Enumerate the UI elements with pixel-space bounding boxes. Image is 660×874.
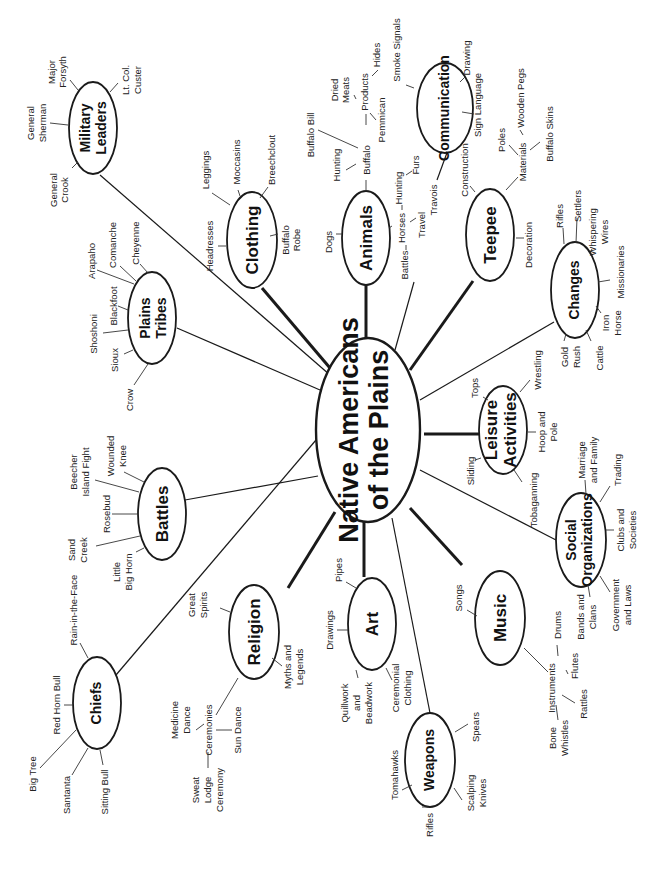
leaf-comanche: Comanche [107,222,118,268]
hub-node: Native Americans of the Plains [316,317,420,543]
leaf-sioux: Sioux [109,348,120,372]
leisure-label-2: Activities [501,392,520,468]
leaf-products: Products [359,73,370,111]
svg-text:Creek: Creek [78,537,89,563]
leaf-sign-language: Sign Language [472,73,483,137]
chiefs-label: Chiefs [88,681,104,724]
leaf-sand-creek: Sand [66,539,77,561]
mind-map: Native Americans of the Plains Military … [0,0,660,874]
hub-title-line2: of the Plains [364,350,394,511]
svg-text:Custer: Custer [132,66,143,94]
leaf-wooden-pegs: Wooden Pegs [515,68,526,128]
military-leaders-label-1: Military [77,103,93,152]
leaf-marriage-family: Marriage [576,441,587,479]
leaf-instruments: Instruments [546,663,557,713]
node-religion: Religion Great Spirits Myths and Legends… [169,585,305,812]
communication-label: Communication [436,55,452,161]
leaf-big-tree: Big Tree [27,756,38,791]
leaf-settlers: Settlers [572,190,583,222]
node-plains-tribes: Plains Tribes Crow Sioux Shoshoni Blackf… [86,221,176,411]
svg-text:and Family: and Family [588,437,599,484]
leaf-poles: Poles [496,128,507,152]
leaf-drawings: Drawings [324,610,335,650]
leaf-whispering-wires: Whispering [587,208,598,256]
leaf-pemmican: Pemmican [376,98,387,143]
leaf-battles-horses: Battles [399,250,410,279]
hub-title-line1: Native Americans [334,317,364,543]
leaf-medicine-dance: Medicine [169,701,180,739]
node-clothing: Clothing Headresses Leggings Moccasins B… [200,135,302,288]
leaf-red-horn-bull: Red Horn Bull [51,675,62,734]
leisure-label-1: Leisure [482,400,501,460]
leaf-pipes: Pipes [333,558,344,582]
edge-chiefs [116,440,316,675]
leaf-buffalo-skins: Buffalo Skins [544,106,555,162]
svg-text:Whistles: Whistles [559,720,570,756]
leaf-smoke-signals: Smoke Signals [391,18,402,82]
leaf-cheyenne: Cheyenne [130,221,141,264]
svg-text:Clans: Clans [587,605,598,630]
svg-text:Meats: Meats [340,77,351,103]
svg-text:and: and [351,695,362,711]
svg-text:Crook: Crook [59,177,70,203]
leaf-clubs-societies: Clubs and [615,509,626,552]
battles-label: Battles [153,486,172,543]
leaf-moccasins: Moccasins [231,139,242,184]
leaf-hunting-horses: Hunting [393,172,404,205]
music-label: Music [491,594,510,642]
leaf-little-big-horn: Little [111,562,122,582]
leaf-ceremonial-clothing: Ceremonial [390,664,401,713]
svg-text:Dance: Dance [181,706,192,733]
svg-text:Robe: Robe [291,229,302,252]
edge-religion [288,512,335,588]
changes-label: Changes [566,260,582,319]
svg-text:Forsyth: Forsyth [57,56,68,88]
leaf-santanta: Santanta [61,775,72,814]
military-leaders-label-2: Leaders [93,101,109,155]
religion-label: Religion [245,598,264,665]
leaf-buffalo: Buffalo [361,145,372,174]
leaf-general-sherman: General [25,106,36,140]
leaf-cattle: Cattle [594,346,605,371]
node-social-organizations: Social Organizations Marriage and Family… [556,437,638,640]
leaf-myths-legends: Myths and [282,645,293,689]
leaf-rain-in-the-face: Rain-in-the-Face [68,575,79,646]
svg-text:and Laws: and Laws [622,584,633,625]
leaf-crow: Crow [124,389,135,411]
edge-clothing [262,288,330,368]
leaf-general-crook: General [48,173,59,207]
plains-tribes-label-1: Plains [137,297,153,338]
node-military-leaders: Military Leaders General Crook General S… [25,56,143,207]
svg-text:Societies: Societies [627,510,638,549]
leaf-horses: Horses [396,213,407,243]
leaf-drawing: Drawing [461,41,472,76]
leaf-hoop-and-pole: Hoop and [536,411,547,452]
leaf-travel: Travel [416,212,427,238]
social-label-1: Social [563,519,579,560]
leaf-materials: Materials [517,142,528,181]
leaf-shoshoni: Shoshoni [88,314,99,354]
leaf-buffalo-robe: Buffalo [280,225,291,254]
leaf-arapaho: Arapaho [86,243,97,279]
node-art: Art Pipes Drawings Quillwork and Beadwor… [324,558,413,724]
svg-text:Horse: Horse [612,310,623,335]
node-changes: Changes Rifles Settlers Whispering Wires… [551,190,626,371]
leaf-scalping-knives: Scalping [465,775,476,811]
svg-text:Ceremony: Ceremony [214,768,225,812]
leaf-construction: Construction [459,143,470,196]
svg-text:Beadwork: Beadwork [363,682,374,724]
leaf-trading: Trading [612,454,623,486]
leaf-sun-dance: Sun Dance [232,706,243,753]
leaf-rosebud: Rosebud [101,495,112,533]
leaf-hides: Hides [371,43,382,68]
leaf-wounded-knee: Wounded [105,436,116,477]
svg-text:Wires: Wires [599,220,610,245]
leaf-spears: Spears [470,712,481,742]
leaf-tobaganning: Tobaganning [528,473,539,527]
plains-tribes-label-2: Tribes [153,297,169,338]
leaf-dried-meats: Dried [329,79,340,102]
leaf-leggings: Leggings [200,150,211,189]
leaf-beecher-island: Beecher [68,454,79,489]
edge-battles-horses [395,282,414,350]
leaf-dogs: Dogs [323,231,334,253]
